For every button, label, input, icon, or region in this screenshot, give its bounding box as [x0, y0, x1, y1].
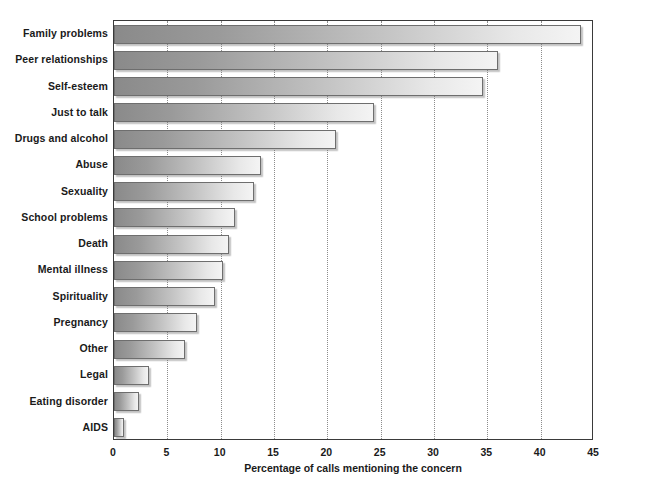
x-axis-tick-label: 15: [267, 446, 279, 458]
bar: [114, 340, 185, 359]
y-axis-label: Mental illness: [0, 263, 108, 275]
plot-area: [113, 20, 593, 440]
x-axis-tick-label: 35: [480, 446, 492, 458]
y-axis-label: Self-esteem: [0, 80, 108, 92]
x-axis-tick-label: 40: [534, 446, 546, 458]
x-axis-tick-label: 10: [214, 446, 226, 458]
y-axis-label: Eating disorder: [0, 395, 108, 407]
y-axis-label: Death: [0, 237, 108, 249]
y-axis-label: Drugs and alcohol: [0, 132, 108, 144]
bar: [114, 287, 215, 306]
y-axis-label: Peer relationships: [0, 53, 108, 65]
bar: [114, 208, 235, 227]
bar: [114, 418, 124, 437]
bar: [114, 392, 139, 411]
y-axis-label: Just to talk: [0, 106, 108, 118]
x-axis-title: Percentage of calls mentioning the conce…: [113, 462, 593, 474]
bar: [114, 235, 229, 254]
y-axis-label: Family problems: [0, 27, 108, 39]
bar: [114, 51, 498, 70]
y-axis-label: Sexuality: [0, 185, 108, 197]
x-axis-tick-label: 45: [587, 446, 599, 458]
y-axis-label: Pregnancy: [0, 316, 108, 328]
x-axis-tick-labels: 051015202530354045: [113, 446, 593, 462]
bar: [114, 156, 261, 175]
y-axis-label: Spirituality: [0, 290, 108, 302]
x-axis-tick-label: 0: [110, 446, 116, 458]
y-axis-label: Abuse: [0, 158, 108, 170]
bar: [114, 25, 581, 44]
bar: [114, 313, 197, 332]
bar: [114, 103, 374, 122]
x-axis-tick-label: 25: [374, 446, 386, 458]
x-axis-tick-label: 30: [427, 446, 439, 458]
bar: [114, 366, 149, 385]
y-axis-label: Other: [0, 342, 108, 354]
y-axis-label: School problems: [0, 211, 108, 223]
bar-chart: Family problemsPeer relationshipsSelf-es…: [0, 0, 651, 489]
bar: [114, 77, 483, 96]
bars-layer: [114, 21, 592, 439]
y-axis-category-labels: Family problemsPeer relationshipsSelf-es…: [0, 20, 108, 440]
bar: [114, 182, 254, 201]
y-axis-label: Legal: [0, 368, 108, 380]
x-axis-tick-label: 5: [163, 446, 169, 458]
bar: [114, 130, 336, 149]
bar: [114, 261, 223, 280]
y-axis-label: AIDS: [0, 421, 108, 433]
x-axis-tick-label: 20: [320, 446, 332, 458]
